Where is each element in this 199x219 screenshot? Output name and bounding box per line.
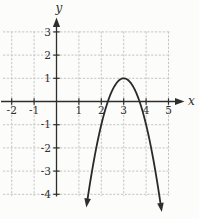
y-tick-label: -2 bbox=[41, 142, 51, 154]
y-tick-label: 3 bbox=[44, 26, 51, 38]
x-axis-label: x bbox=[188, 94, 195, 108]
y-tick-label: -3 bbox=[41, 165, 51, 177]
curve-right-arrowhead bbox=[157, 203, 164, 212]
x-tick-label: -1 bbox=[29, 104, 39, 116]
parabola-graph-figure: -2-112345-4-3-2-1123xy bbox=[0, 0, 199, 219]
y-tick-label: 1 bbox=[44, 72, 51, 84]
y-axis-arrowhead bbox=[53, 18, 60, 28]
x-tick-label: 3 bbox=[120, 104, 127, 116]
y-axis-label: y bbox=[55, 1, 63, 15]
x-tick-label: 1 bbox=[76, 104, 83, 116]
x-axis-arrowhead bbox=[175, 98, 185, 105]
graph-canvas: -2-112345-4-3-2-1123xy bbox=[0, 0, 199, 219]
y-tick-label: 2 bbox=[44, 49, 51, 61]
curve-left-arrowhead bbox=[84, 198, 91, 207]
x-tick-label: -2 bbox=[7, 104, 17, 116]
x-tick-label: 5 bbox=[165, 104, 172, 116]
y-tick-label: -4 bbox=[41, 188, 52, 200]
y-tick-label: -1 bbox=[41, 118, 51, 130]
